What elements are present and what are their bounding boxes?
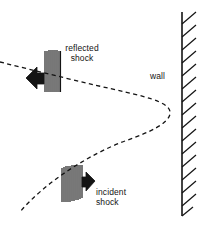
wall-group [182, 12, 196, 216]
reflected-shock-label-line2: shock [58, 54, 106, 64]
reflected-shock-label: reflected shock [58, 44, 106, 63]
wall-hatching [182, 12, 196, 216]
incident-shock-group [62, 165, 95, 202]
shock-trajectory-dashed-curve [0, 62, 170, 212]
wall-label: wall [150, 72, 165, 82]
reflected-shock-group [26, 50, 61, 92]
incident-shock-label: incident shock [96, 188, 140, 207]
shock-trajectory-group [0, 62, 170, 212]
incident-shock-arrow [82, 172, 95, 191]
reflected-shock-arrow [26, 67, 44, 89]
incident-shock-label-line2: shock [96, 198, 140, 208]
shock-reflection-diagram: reflected shock incident shock wall [0, 0, 201, 228]
incident-shock-band [62, 165, 82, 202]
